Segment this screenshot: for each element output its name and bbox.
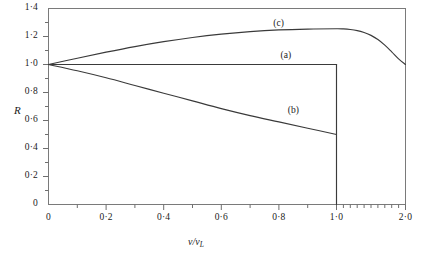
- curve-label-b: (b): [288, 105, 299, 115]
- y-tick-label: 1·2: [4, 30, 38, 40]
- axis-ticks: [43, 23, 406, 211]
- y-tick-label: 0·6: [4, 114, 38, 124]
- curve-label-a: (a): [281, 50, 292, 60]
- curve-label-c: (c): [273, 18, 284, 28]
- y-tick-label: 0·8: [4, 86, 38, 96]
- x-tick-label: 1·0: [320, 212, 354, 222]
- curve-b: [49, 65, 337, 135]
- chart-figure: 00·20·40·60·81·01·21·4 00·20·40·60·81·02…: [0, 0, 435, 264]
- x-tick-label: 0·8: [262, 212, 296, 222]
- x-axis-title: v/vL: [188, 236, 204, 249]
- x-tick-label: 0·2: [89, 212, 123, 222]
- x-tick-label: 0·4: [147, 212, 181, 222]
- chart-overlay: [0, 0, 435, 264]
- y-tick-label: 1·4: [4, 2, 38, 12]
- data-curves: [49, 29, 406, 205]
- y-tick-label: 0: [4, 198, 38, 208]
- y-tick-label: 1·0: [4, 58, 38, 68]
- x-tick-label: 2·0: [389, 212, 423, 222]
- x-tick-label: 0: [32, 212, 66, 222]
- y-axis-title: R: [14, 104, 21, 116]
- y-tick-label: 0·2: [4, 170, 38, 180]
- x-tick-label: 0·6: [204, 212, 238, 222]
- curve-c: [49, 29, 406, 65]
- y-tick-label: 0·4: [4, 142, 38, 152]
